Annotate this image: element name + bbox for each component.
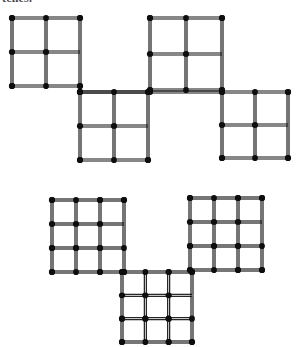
matchstick-head — [77, 123, 83, 129]
matchstick-head — [43, 83, 49, 89]
matchstick-head — [73, 245, 79, 251]
matchstick-v-c3-r0 — [189, 269, 195, 295]
matchstick-v-c0-r0 — [147, 15, 153, 54]
matchstick-v-c3-r0 — [259, 195, 265, 222]
matchstick-v-c3-r2 — [259, 246, 265, 273]
grid-square-center — [119, 269, 195, 345]
matchstick-v-c1-r0 — [43, 15, 49, 52]
grid-square-upper-right — [147, 15, 225, 93]
matchstick-v-c0-r1 — [187, 222, 193, 249]
matchstick-head — [77, 89, 83, 95]
matchstick-head — [77, 157, 83, 163]
matchstick-head — [97, 269, 103, 275]
matchstick-v-c0-r2 — [49, 248, 55, 275]
matchstick-head — [73, 197, 79, 203]
matchstick-figure-bottom-group — [49, 195, 265, 345]
matchstick-head — [166, 292, 172, 298]
matchstick-v-c1-r1 — [252, 125, 258, 161]
matchstick-head — [111, 157, 117, 163]
matchstick-v-c2-r0 — [219, 15, 225, 54]
matchstick-v-c0-r1 — [219, 125, 225, 161]
matchstick-v-c0-r2 — [119, 319, 125, 345]
matchstick-head — [219, 122, 225, 128]
matchstick-v-c3-r1 — [121, 224, 127, 251]
matchstick-v-c1-r0 — [183, 15, 189, 54]
matchstick-h-r1-c1 — [252, 122, 288, 128]
matchstick-head — [183, 51, 189, 57]
matchstick-head — [189, 316, 195, 322]
grid-square-lower-right — [219, 89, 291, 161]
matchstick-head — [147, 15, 153, 21]
matchstick-v-c2-r2 — [235, 246, 241, 273]
matchstick-v-c2-r1 — [77, 52, 83, 89]
matchstick-v-c1-r1 — [183, 54, 189, 93]
matchstick-v-c3-r1 — [189, 295, 195, 321]
matchstick-v-c1-r1 — [211, 222, 217, 249]
matchstick-v-c2-r1 — [219, 54, 225, 93]
matchstick-v-c0-r1 — [77, 126, 83, 163]
matchstick-head — [252, 122, 258, 128]
matchstick-v-c0-r1 — [147, 54, 153, 93]
matchstick-head — [252, 155, 258, 161]
matchstick-v-c0-r1 — [119, 295, 125, 321]
matchstick-figure-bottom-canvas — [0, 175, 304, 347]
matchstick-v-c1-r1 — [43, 52, 49, 89]
matchstick-head — [219, 155, 225, 161]
matchstick-v-c2-r0 — [235, 195, 241, 222]
matchstick-head — [219, 15, 225, 21]
matchstick-head — [285, 155, 291, 161]
matchstick-figure-bottom — [0, 175, 304, 347]
matchstick-v-c0-r0 — [77, 89, 83, 126]
matchstick-head — [77, 15, 83, 21]
matchstick-head — [73, 269, 79, 275]
matchstick-v-c2-r0 — [77, 15, 83, 52]
matchstick-v-c1-r1 — [111, 126, 117, 163]
matchstick-h-r1-c1 — [111, 123, 148, 129]
matchstick-head — [121, 197, 127, 203]
matchstick-head — [235, 219, 241, 225]
matchstick-v-c1-r1 — [142, 295, 148, 321]
matchstick-v-c2-r1 — [97, 224, 103, 251]
matchstick-head — [183, 87, 189, 93]
matchstick-v-c1-r0 — [252, 89, 258, 125]
matchstick-v-c3-r1 — [259, 222, 265, 249]
matchstick-head — [259, 267, 265, 273]
matchstick-head — [119, 269, 125, 275]
matchstick-head — [235, 267, 241, 273]
matchstick-head — [9, 15, 15, 21]
matchstick-head — [97, 245, 103, 251]
matchstick-head — [49, 269, 55, 275]
matchstick-h-r1-c0 — [147, 51, 186, 57]
matchstick-head — [142, 292, 148, 298]
matchstick-v-c0-r0 — [49, 197, 55, 224]
matchstick-head — [219, 89, 225, 95]
matchstick-head — [43, 49, 49, 55]
matchstick-v-c3-r2 — [189, 319, 195, 345]
matchstick-h-r1-c1 — [183, 51, 222, 57]
matchstick-head — [211, 219, 217, 225]
matchstick-head — [211, 243, 217, 249]
matchstick-head — [166, 269, 172, 275]
matchstick-head — [111, 89, 117, 95]
matchstick-head — [187, 195, 193, 201]
matchstick-v-c1-r0 — [142, 269, 148, 295]
matchstick-head — [142, 269, 148, 275]
matchstick-head — [119, 316, 125, 322]
matchstick-head — [235, 243, 241, 249]
matchstick-head — [189, 339, 195, 345]
matchstick-head — [9, 83, 15, 89]
matchstick-v-c1-r0 — [111, 89, 117, 126]
matchstick-head — [43, 15, 49, 21]
matchstick-figure-top — [0, 0, 304, 175]
matchstick-v-c2-r0 — [97, 197, 103, 224]
matchstick-head — [259, 195, 265, 201]
matchstick-head — [235, 195, 241, 201]
matchstick-head — [189, 269, 195, 275]
grid-square-lower-left — [77, 89, 151, 163]
matchstick-head — [77, 83, 83, 89]
matchstick-v-c2-r2 — [166, 319, 172, 345]
matchstick-head — [187, 243, 193, 249]
matchstick-head — [252, 89, 258, 95]
matchstick-v-c0-r0 — [219, 89, 225, 125]
matchstick-v-c2-r1 — [145, 126, 151, 163]
